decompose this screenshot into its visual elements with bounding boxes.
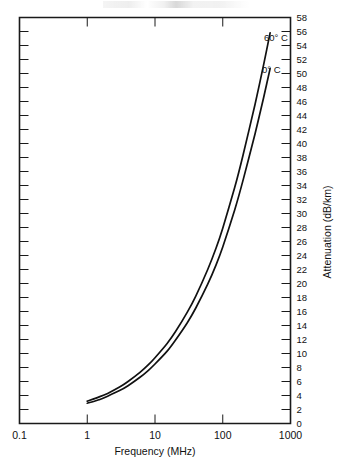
y-axis-tick-labels: 0246810121416182022242628303234363840424… [297, 12, 308, 429]
data-curve-0-c [87, 69, 270, 404]
y-axis-ticks [20, 32, 291, 410]
x-tick-label: 1000 [279, 429, 303, 441]
y-tick-label: 10 [297, 348, 308, 359]
y-tick-label: 14 [297, 320, 308, 331]
x-axis-title: Frequency (MHz) [114, 445, 195, 457]
y-tick-label: 50 [297, 68, 308, 79]
y-tick-label: 22 [297, 264, 308, 275]
y-tick-label: 16 [297, 306, 308, 317]
attenuation-vs-frequency-chart: 0246810121416182022242628303234363840424… [0, 0, 339, 464]
x-tick-label: 1 [84, 429, 90, 441]
plot-border [20, 18, 291, 424]
data-curve-60-c [87, 33, 270, 401]
y-tick-label: 20 [297, 278, 308, 289]
x-tick-label: 10 [149, 429, 161, 441]
y-tick-label: 44 [297, 110, 308, 121]
series-label: 60° C [264, 32, 288, 43]
y-tick-label: 48 [297, 82, 308, 93]
x-tick-label: 0.1 [12, 429, 27, 441]
x-axis-ticks [87, 18, 223, 424]
y-tick-label: 52 [297, 54, 308, 65]
x-tick-label: 100 [214, 429, 232, 441]
y-tick-label: 42 [297, 124, 308, 135]
y-tick-label: 24 [297, 250, 308, 261]
data-curves [87, 33, 270, 403]
y-tick-label: 56 [297, 26, 308, 37]
y-tick-label: 28 [297, 222, 308, 233]
y-tick-label: 2 [297, 404, 302, 415]
plot-frame [20, 18, 291, 424]
chart-svg: 0246810121416182022242628303234363840424… [0, 0, 339, 464]
y-tick-label: 6 [297, 376, 302, 387]
y-tick-label: 38 [297, 152, 308, 163]
y-tick-label: 30 [297, 208, 308, 219]
y-tick-label: 12 [297, 334, 308, 345]
x-axis-tick-labels: 0.11101001000 [12, 429, 302, 441]
y-tick-label: 40 [297, 138, 308, 149]
y-tick-label: 8 [297, 362, 302, 373]
y-axis-title: Attenuation (dB/km) [321, 186, 333, 279]
y-tick-label: 54 [297, 40, 308, 51]
y-tick-label: 18 [297, 292, 308, 303]
y-tick-label: 34 [297, 180, 308, 191]
y-tick-label: 58 [297, 12, 308, 23]
y-tick-label: 0 [297, 418, 302, 429]
y-tick-label: 4 [297, 390, 302, 401]
y-tick-label: 36 [297, 166, 308, 177]
series-label: 0° C [262, 64, 281, 75]
y-tick-label: 32 [297, 194, 308, 205]
y-tick-label: 26 [297, 236, 308, 247]
y-tick-label: 46 [297, 96, 308, 107]
